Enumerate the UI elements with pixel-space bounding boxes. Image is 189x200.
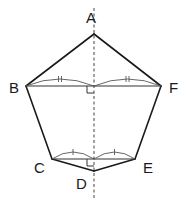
edge-FA <box>94 34 161 86</box>
symmetry-diagram: A B C D E F <box>0 0 189 200</box>
right-angle-marker-CE <box>87 159 94 166</box>
edge-AB <box>26 34 94 86</box>
edge-BC <box>26 86 52 159</box>
edge-CD <box>52 159 94 171</box>
vertex-label-B: B <box>9 79 19 96</box>
arc-mid-F <box>94 79 161 86</box>
arc-B-mid <box>26 79 94 86</box>
right-angle-marker-BF <box>87 86 94 93</box>
vertex-label-F: F <box>169 79 178 96</box>
edge-EF <box>135 86 161 159</box>
vertex-label-D: D <box>76 175 87 192</box>
vertex-label-E: E <box>143 159 153 176</box>
edge-DE <box>94 159 135 171</box>
vertex-label-C: C <box>34 159 45 176</box>
vertex-label-A: A <box>86 9 96 26</box>
